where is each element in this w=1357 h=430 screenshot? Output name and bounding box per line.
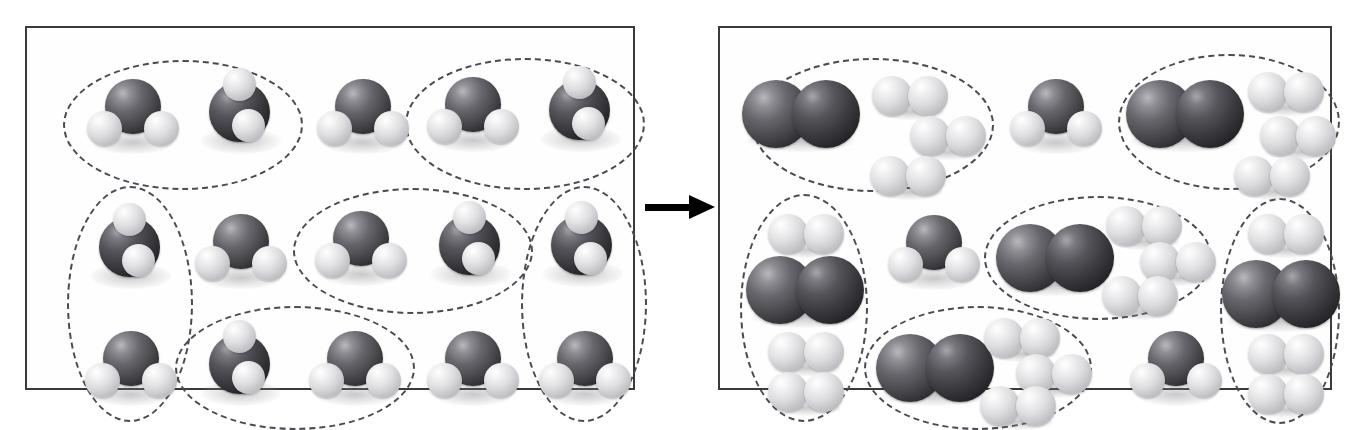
molecule-h2o bbox=[425, 201, 517, 287]
hydrogen-atom bbox=[804, 214, 844, 254]
hydrogen-atom bbox=[1130, 363, 1165, 398]
hydrogen-atom bbox=[910, 116, 950, 156]
hydrogen-atom bbox=[1067, 111, 1102, 146]
molecule-o2 bbox=[742, 80, 860, 148]
molecule-h2 bbox=[870, 156, 946, 196]
molecule-o2 bbox=[1126, 80, 1244, 148]
molecule-h2 bbox=[980, 386, 1056, 426]
hydrogen-atom bbox=[1102, 276, 1142, 316]
hydrogen-atom bbox=[870, 156, 910, 196]
molecule-h2o bbox=[85, 328, 177, 406]
molecule-h2o bbox=[539, 328, 631, 406]
oxygen-atom bbox=[796, 256, 864, 324]
hydrogen-atom bbox=[804, 332, 844, 372]
hydrogen-atom bbox=[1284, 214, 1324, 254]
hydrogen-atom bbox=[565, 201, 598, 234]
hydrogen-atom bbox=[453, 201, 486, 234]
arrow-head bbox=[689, 195, 715, 219]
molecule-h2 bbox=[768, 214, 844, 254]
reaction-arrow-icon bbox=[645, 195, 717, 219]
molecule-h2o bbox=[309, 328, 401, 406]
molecule-o2 bbox=[996, 224, 1114, 292]
molecule-h2 bbox=[872, 76, 948, 116]
molecule-h2o bbox=[427, 74, 519, 152]
hydrogen-atom bbox=[144, 111, 179, 146]
hydrogen-atom bbox=[484, 363, 519, 398]
hydrogen-atom bbox=[1106, 206, 1146, 246]
molecule-h2o bbox=[85, 203, 177, 289]
hydrogen-atom bbox=[768, 332, 808, 372]
hydrogen-atom bbox=[195, 246, 230, 281]
hydrogen-atom bbox=[372, 243, 407, 278]
molecule-h2 bbox=[768, 332, 844, 372]
molecule-h2o bbox=[1130, 328, 1222, 406]
molecule-h2o bbox=[888, 212, 980, 290]
molecule-h2 bbox=[1106, 206, 1182, 246]
arrow-shaft bbox=[645, 204, 693, 211]
hydrogen-atom bbox=[1248, 374, 1288, 414]
molecule-h2o bbox=[1010, 76, 1102, 154]
molecule-h2o bbox=[535, 66, 627, 152]
molecule-h2o bbox=[315, 208, 407, 286]
hydrogen-atom bbox=[984, 318, 1024, 358]
hydrogen-atom bbox=[1296, 116, 1336, 156]
hydrogen-atom bbox=[1052, 354, 1092, 394]
hydrogen-atom bbox=[142, 363, 177, 398]
hydrogen-atom bbox=[484, 109, 519, 144]
hydrogen-atom bbox=[315, 243, 350, 278]
products-content bbox=[720, 28, 1330, 388]
hydrogen-atom bbox=[1176, 242, 1216, 282]
molecule-h2 bbox=[1102, 276, 1178, 316]
oxygen-atom bbox=[1176, 80, 1244, 148]
hydrogen-atom bbox=[427, 363, 462, 398]
molecule-h2 bbox=[768, 372, 844, 412]
oxygen-atom bbox=[792, 80, 860, 148]
hydrogen-atom bbox=[908, 76, 948, 116]
reactants-content bbox=[27, 28, 633, 388]
hydrogen-atom bbox=[1284, 72, 1324, 112]
hydrogen-atom bbox=[1142, 206, 1182, 246]
hydrogen-atom bbox=[1284, 334, 1324, 374]
hydrogen-atom bbox=[309, 363, 344, 398]
molecule-h2 bbox=[1248, 72, 1324, 112]
hydrogen-atom bbox=[87, 111, 122, 146]
molecule-h2 bbox=[1260, 116, 1336, 156]
hydrogen-atom bbox=[1010, 111, 1045, 146]
hydrogen-atom bbox=[539, 363, 574, 398]
hydrogen-atom bbox=[1016, 386, 1056, 426]
hydrogen-atom bbox=[980, 386, 1020, 426]
hydrogen-atom bbox=[596, 363, 631, 398]
hydrogen-atom bbox=[1270, 156, 1310, 196]
molecule-h2o bbox=[195, 68, 287, 154]
hydrogen-atom bbox=[804, 372, 844, 412]
molecule-h2o bbox=[195, 211, 287, 289]
hydrogen-atom bbox=[563, 66, 596, 99]
molecule-h2 bbox=[984, 318, 1060, 358]
hydrogen-atom bbox=[1284, 374, 1324, 414]
hydrogen-atom bbox=[427, 109, 462, 144]
molecule-h2 bbox=[1248, 334, 1324, 374]
molecule-h2 bbox=[910, 116, 986, 156]
hydrogen-atom bbox=[1234, 156, 1274, 196]
hydrogen-atom bbox=[374, 111, 409, 146]
molecule-o2 bbox=[876, 334, 994, 402]
hydrogen-atom bbox=[768, 214, 808, 254]
molecule-h2 bbox=[1248, 214, 1324, 254]
hydrogen-atom bbox=[1248, 72, 1288, 112]
hydrogen-atom bbox=[85, 363, 120, 398]
hydrogen-atom bbox=[872, 76, 912, 116]
molecule-o2 bbox=[1222, 260, 1340, 328]
panel-reactants bbox=[25, 26, 635, 390]
molecule-h2o bbox=[427, 328, 519, 406]
hydrogen-atom bbox=[945, 247, 980, 282]
molecule-h2o bbox=[87, 76, 179, 154]
molecule-h2 bbox=[1234, 156, 1310, 196]
hydrogen-atom bbox=[1187, 363, 1222, 398]
hydrogen-atom bbox=[366, 363, 401, 398]
hydrogen-atom bbox=[223, 320, 256, 353]
molecule-h2o bbox=[317, 76, 409, 154]
hydrogen-atom bbox=[1248, 214, 1288, 254]
molecule-h2o bbox=[537, 201, 629, 287]
molecule-h2 bbox=[1248, 374, 1324, 414]
